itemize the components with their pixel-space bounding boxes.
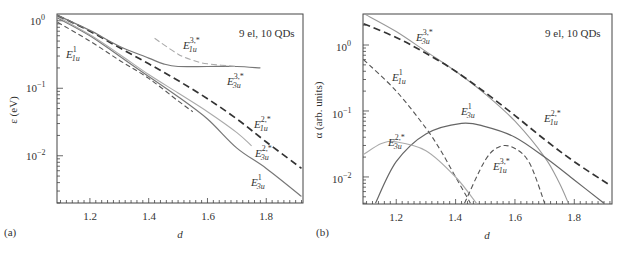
curves-a xyxy=(58,15,302,196)
plot-frame-b xyxy=(363,14,612,204)
y-axis-label-b: α (arb. units) xyxy=(312,81,325,138)
panel-a: 100 10−1 10−2 1.2 1.4 1.6 1.8 d ε (eV) (… xyxy=(4,13,303,240)
xtick-label-a-2: 1.6 xyxy=(201,210,215,222)
ytick-label-b-2: 10−2 xyxy=(332,171,352,185)
curve-e3u1 xyxy=(376,123,605,203)
curve-e3u2 xyxy=(58,17,252,146)
ytick-label-b-1: 10−1 xyxy=(332,106,352,120)
curve-label-a-E1u2: E2,*1u xyxy=(253,115,271,133)
curve-e1u1 xyxy=(58,22,193,111)
curve-label-a-E3u3: E3,*3u xyxy=(226,72,244,90)
ytick-label-a-1: 10−1 xyxy=(26,80,46,94)
panel-label-a: (a) xyxy=(4,226,17,239)
axis-ticks-a xyxy=(57,21,302,203)
annotation-a: 9 el, 10 QDs xyxy=(239,27,295,39)
curve-label-a-E1u1: E11u xyxy=(65,45,80,63)
axis-ticks-b xyxy=(363,25,610,204)
annotation-b: 9 el, 10 QDs xyxy=(545,27,601,39)
plot-frame-a xyxy=(57,14,303,203)
curve-e1u1 xyxy=(364,60,471,204)
xtick-label-a-3: 1.8 xyxy=(259,210,273,222)
curve-label-a-E1u3: E3,*1u xyxy=(182,36,200,54)
xtick-label-a-1: 1.4 xyxy=(142,210,156,222)
curve-label-b-E1u2: E2,*1u xyxy=(543,109,561,127)
xtick-label-a-0: 1.2 xyxy=(83,210,97,222)
ytick-label-a-2: 10−2 xyxy=(26,148,46,162)
xtick-label-b-1: 1.4 xyxy=(448,211,462,223)
curve-label-a-E3u2: E2,*3u xyxy=(254,144,272,162)
x-axis-label-a: d xyxy=(177,228,183,240)
curve-e3u1 xyxy=(58,18,302,196)
curve-e1u2 xyxy=(364,24,610,186)
figure: 100 10−1 10−2 1.2 1.4 1.6 1.8 d ε (eV) (… xyxy=(0,0,620,253)
x-axis-label-b: d xyxy=(484,229,490,241)
curve-label-b-E3u1: E13u xyxy=(460,102,475,120)
curve-label-b-E3u3: E3,*3u xyxy=(415,28,433,46)
panel-label-b: (b) xyxy=(316,226,329,239)
curve-label-a-E3u1: E13u xyxy=(250,173,265,191)
curves-b xyxy=(364,14,610,204)
xtick-label-b-2: 1.6 xyxy=(508,211,522,223)
curve-label-b-E1u3: E3,*1u xyxy=(492,157,510,175)
y-axis-label-a: ε (eV) xyxy=(7,96,20,124)
xtick-label-b-0: 1.2 xyxy=(389,211,403,223)
curve-label-b-E1u1: E11u xyxy=(391,68,406,86)
ytick-label-a-0: 100 xyxy=(30,13,45,27)
panel-b: 100 10−1 10−2 1.2 1.4 1.6 1.8 d α (arb. … xyxy=(312,14,612,242)
curve-label-b-E3u2: E2,*3u xyxy=(387,133,405,151)
curve-e3u2 xyxy=(364,141,477,203)
ytick-label-b-0: 100 xyxy=(336,39,351,53)
xtick-label-b-3: 1.8 xyxy=(567,211,581,223)
